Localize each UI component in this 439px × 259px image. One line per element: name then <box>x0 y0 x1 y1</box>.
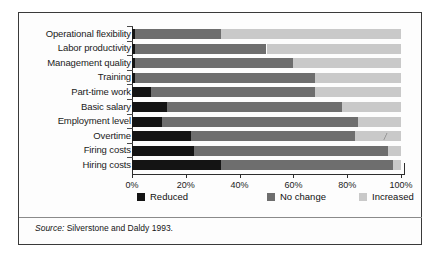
bar-row <box>132 160 401 170</box>
axis-right-cap <box>404 163 405 175</box>
bar-segment-increased <box>267 44 402 54</box>
category-tick <box>127 26 133 27</box>
bar-row <box>132 29 401 39</box>
figure-frame: Operational flexibilityLabor productivit… <box>18 12 422 245</box>
category-tick <box>127 99 133 100</box>
chart-plot-area: Operational flexibilityLabor productivit… <box>19 13 423 246</box>
bar-segment-no-change <box>135 58 294 68</box>
category-label: Employment level <box>58 116 131 126</box>
category-label: Hiring costs <box>83 160 131 170</box>
source-prefix: Source: <box>35 223 64 233</box>
category-tick <box>127 70 133 71</box>
bar-row <box>132 102 401 112</box>
legend-item-reduced: Reduced <box>137 191 188 202</box>
x-axis-tick <box>347 174 348 178</box>
legend-label: Increased <box>372 191 414 202</box>
bar-segment-no-change <box>194 146 388 156</box>
bar-row <box>132 117 401 127</box>
category-label: Management quality <box>47 58 131 68</box>
category-label: Part-time work <box>71 87 131 97</box>
bar-row <box>132 146 401 156</box>
bar-segment-increased <box>355 131 401 141</box>
bar-segment-reduced <box>132 117 162 127</box>
x-axis-tick-label: 20% <box>177 180 195 190</box>
x-axis-tick <box>401 174 402 178</box>
bar-segment-increased <box>293 58 401 68</box>
bar-segment-reduced <box>132 146 194 156</box>
bar-segment-increased <box>393 160 401 170</box>
bar-segment-reduced <box>132 131 191 141</box>
bar-segment-no-change <box>135 29 221 39</box>
category-label: Basic salary <box>81 102 131 112</box>
bar-segment-no-change <box>135 44 267 54</box>
bar-row <box>132 87 401 97</box>
bar-segment-reduced <box>132 160 221 170</box>
legend-swatch <box>359 193 367 201</box>
source-divider <box>19 217 422 218</box>
bar-segment-increased <box>358 117 401 127</box>
bar-row <box>132 44 401 54</box>
bar-row <box>132 131 401 141</box>
bar-segment-no-change <box>221 160 393 170</box>
x-axis-tick-label: 100% <box>389 180 412 190</box>
category-label: Overtime <box>93 131 131 141</box>
x-axis-tick-label: 40% <box>231 180 249 190</box>
x-axis-tick <box>293 174 294 178</box>
legend-item-increased: Increased <box>359 191 414 202</box>
chart-legend: ReducedNo changeIncreased <box>19 191 423 209</box>
bar-segment-no-change <box>135 73 315 83</box>
x-axis-tick-label: 60% <box>284 180 302 190</box>
category-tick <box>127 128 133 129</box>
bar-segment-no-change <box>167 102 342 112</box>
legend-item-no-change: No change <box>267 191 326 202</box>
bar-segment-no-change <box>162 117 358 127</box>
bar-row <box>132 73 401 83</box>
legend-label: Reduced <box>150 191 188 202</box>
bar-segment-reduced <box>132 102 167 112</box>
bar-segment-reduced <box>132 87 151 97</box>
category-label: Training <box>98 72 131 82</box>
bar-row <box>132 58 401 68</box>
source-citation: Silverstone and Daldy 1993. <box>64 223 173 233</box>
x-axis-tick <box>240 174 241 178</box>
category-tick <box>127 157 133 158</box>
bar-segment-no-change <box>151 87 315 97</box>
source-note: Source: Silverstone and Daldy 1993. <box>35 223 173 233</box>
category-tick <box>127 114 133 115</box>
x-axis-tick <box>132 174 133 178</box>
x-axis-tick <box>186 174 187 178</box>
category-tick <box>127 41 133 42</box>
legend-swatch <box>137 193 145 201</box>
legend-label: No change <box>280 191 326 202</box>
category-tick <box>127 143 133 144</box>
x-axis-tick-label: 80% <box>338 180 356 190</box>
bar-segment-increased <box>388 146 401 156</box>
bar-segment-increased <box>221 29 401 39</box>
bar-segment-increased <box>342 102 401 112</box>
category-tick <box>127 55 133 56</box>
bar-segment-increased <box>315 73 401 83</box>
x-axis-line <box>132 174 404 175</box>
x-axis-tick-label: 0% <box>125 180 138 190</box>
category-label: Operational flexibility <box>46 29 131 39</box>
legend-swatch <box>267 193 275 201</box>
category-tick <box>127 84 133 85</box>
bar-segment-no-change <box>191 131 355 141</box>
category-label: Firing costs <box>84 145 131 155</box>
category-label: Labor productivity <box>58 43 131 53</box>
bar-segment-increased <box>315 87 401 97</box>
